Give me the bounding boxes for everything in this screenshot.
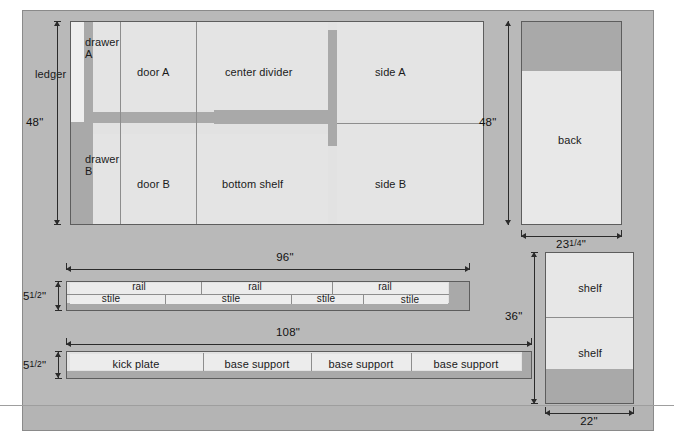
dim-rail-length-tick-right xyxy=(469,263,470,270)
label-stile-4: stile xyxy=(401,294,419,306)
dim-base-length-line xyxy=(66,344,532,345)
dim-shelf-height-tick-top xyxy=(531,252,538,253)
dim-shelf-width-tick-right xyxy=(633,407,634,414)
piece-shelf-lower xyxy=(546,317,633,369)
piece-rail-2 xyxy=(201,283,332,294)
dim-rail-length-tick-left xyxy=(66,263,67,270)
dim-base-width-arrow-bottom xyxy=(55,373,61,378)
waste-base-board-bottom xyxy=(67,371,531,378)
label-back: back xyxy=(558,134,582,146)
rule-base-3 xyxy=(411,353,412,371)
dim-back-width-whole: 23 xyxy=(556,238,569,250)
dim-shelf-height-tick-bottom xyxy=(531,403,538,404)
label-drawer-a: drawer A xyxy=(85,36,119,60)
label-side-b: side B xyxy=(375,178,406,190)
dim-base-length-tick-right xyxy=(531,338,532,345)
dim-rail-width-arrow-top xyxy=(55,282,61,287)
label-drawer-b: drawer B xyxy=(85,153,119,177)
dim-base-length-tick-left xyxy=(66,338,67,345)
piece-back xyxy=(522,71,621,224)
rule-rail-1 xyxy=(201,282,202,294)
dim-back-width-fraction: 1/4 xyxy=(569,238,581,248)
label-rail-1: rail xyxy=(132,281,146,293)
waste-mid-band-right xyxy=(214,110,337,124)
label-shelf-lower: shelf xyxy=(578,347,602,359)
label-door-b: door B xyxy=(137,178,170,190)
label-stile-2: stile xyxy=(222,293,240,305)
dim-base-length-label: 108" xyxy=(276,326,300,338)
waste-vertical-post xyxy=(328,30,337,124)
dim-rail-length-line xyxy=(66,269,470,270)
waste-mid-band-left xyxy=(84,112,214,123)
rule-base-1 xyxy=(203,353,204,371)
dim-shelf-height-line xyxy=(534,252,535,404)
waste-vertical-post-lower xyxy=(328,124,337,146)
dim-base-width-arrow-top xyxy=(55,352,61,357)
waste-below-ledger xyxy=(71,122,84,224)
label-shelf-upper: shelf xyxy=(578,282,602,294)
diagram-background-lower xyxy=(22,405,654,431)
dim-rail-width-label: 51/2" xyxy=(23,290,46,302)
rule-stile-3 xyxy=(363,294,364,304)
cutting-diagram: drawer A door A center divider side A dr… xyxy=(0,0,674,439)
dim-back-width-line xyxy=(521,236,622,237)
label-bottom-shelf: bottom shelf xyxy=(222,178,283,190)
dim-rail-width-arrow-bottom xyxy=(55,305,61,310)
dim-shelf-width-label: 22" xyxy=(580,415,597,427)
dim-rail-width-whole: 5 xyxy=(23,290,30,302)
rule-main-2 xyxy=(196,22,197,224)
dim-rail-width-fraction: 1/2 xyxy=(30,290,42,300)
dim-back-height-label: 48" xyxy=(479,116,496,128)
dim-base-width-fraction: 1/2 xyxy=(30,359,42,369)
piece-side-b xyxy=(337,124,483,224)
label-center-divider: center divider xyxy=(225,66,292,78)
piece-ledger xyxy=(71,22,84,122)
waste-base-board-end xyxy=(522,352,531,378)
dim-main-height-label: 48" xyxy=(26,116,43,128)
waste-back-top xyxy=(522,22,621,71)
rule-base-2 xyxy=(311,353,312,371)
dim-back-height-arrow-bottom xyxy=(505,220,511,225)
dim-back-width-tick-left xyxy=(521,230,522,237)
dim-main-height-tick-top xyxy=(54,21,61,22)
piece-drawer-b xyxy=(93,134,120,224)
label-stile-3: stile xyxy=(317,293,335,305)
label-kick-plate: kick plate xyxy=(113,358,160,370)
dim-base-width-tick-bottom xyxy=(55,378,62,379)
dim-back-width-tick-right xyxy=(621,230,622,237)
dim-shelf-width-line xyxy=(545,413,634,414)
dim-back-height-line xyxy=(508,21,509,225)
page-fold-line xyxy=(0,405,674,406)
dim-main-height-line xyxy=(57,21,58,225)
label-rail-3: rail xyxy=(378,281,392,293)
rule-main-1 xyxy=(120,22,121,224)
label-base-support-3: base support xyxy=(434,358,499,370)
dim-main-height-tick-bottom xyxy=(54,224,61,225)
rule-stile-2 xyxy=(291,294,292,304)
dim-base-width-whole: 5 xyxy=(23,359,30,371)
label-ledger: ledger xyxy=(35,68,66,80)
label-rail-2: rail xyxy=(248,281,262,293)
dim-base-width-label: 51/2" xyxy=(23,359,46,371)
label-base-support-2: base support xyxy=(329,358,394,370)
label-base-support-1: base support xyxy=(225,358,290,370)
rule-main-side-split xyxy=(337,123,483,124)
dim-rail-width-tick-bottom xyxy=(55,310,62,311)
waste-shelf-bottom xyxy=(546,369,633,403)
rule-stile-1 xyxy=(165,294,166,304)
dim-back-height-arrow-top xyxy=(505,21,511,26)
waste-rail-board-bottom xyxy=(67,303,449,310)
dim-shelf-height-label: 36" xyxy=(505,310,522,322)
piece-side-a xyxy=(337,22,483,120)
dim-rail-length-label: 96" xyxy=(276,251,293,263)
label-door-a: door A xyxy=(137,66,169,78)
waste-rail-board-end xyxy=(449,282,469,310)
label-side-a: side A xyxy=(375,66,406,78)
label-stile-1: stile xyxy=(102,293,120,305)
rule-shelf-split xyxy=(546,317,633,318)
dim-back-width-label: 231/4" xyxy=(556,238,586,250)
dim-shelf-width-tick-left xyxy=(545,407,546,414)
